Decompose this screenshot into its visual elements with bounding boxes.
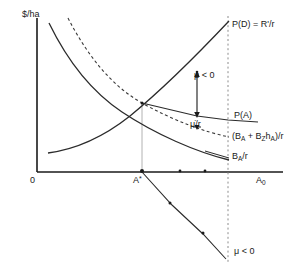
economics-figure: $/ha 0 A* A0 P(D) = R'/r P(A) (BA + BZhA…	[0, 0, 297, 273]
annotation-mu-gap-upper: μ < 0	[194, 71, 214, 80]
intersection-dot	[141, 102, 144, 105]
curve-label-demand: P(D) = R'/r	[232, 20, 274, 29]
origin-label: 0	[30, 176, 35, 185]
curve-demand-pd	[48, 21, 229, 153]
curve-mu-lower-trajectory	[142, 172, 226, 259]
curve-label-pa: P(A)	[234, 111, 252, 120]
annotation-mu-dot-over-r: μ̇/r	[190, 120, 201, 129]
curve-label-dashed: (BA + BZhA)/r	[232, 132, 283, 141]
lower-trajectory-dot-2	[202, 232, 205, 235]
a-star-label: A*	[133, 176, 142, 185]
curve-label-ba-over-r: BA/r	[232, 152, 248, 161]
lower-trajectory-dot-1	[169, 202, 172, 205]
curve-ba-over-r	[49, 23, 229, 160]
x-axis-dot-right	[204, 170, 207, 173]
x-axis-label: A0	[256, 176, 266, 185]
y-axis-label: $/ha	[22, 10, 40, 19]
annotation-mu-lower-curve: μ < 0	[234, 247, 254, 256]
x-axis-dot-mid	[179, 170, 182, 173]
x-axis-dot-astar	[140, 169, 144, 173]
